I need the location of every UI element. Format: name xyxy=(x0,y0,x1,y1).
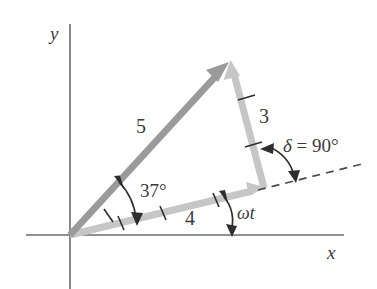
angle-label-omega-t: ωt xyxy=(237,204,255,222)
resultant-vector-5-tick xyxy=(104,209,113,222)
vector-label-3: 3 xyxy=(259,106,269,126)
vector-label-4: 4 xyxy=(185,208,195,228)
angle-delta-value: = 90° xyxy=(292,135,339,156)
resultant-vector-5-group xyxy=(70,62,229,235)
x-axis-label: x xyxy=(327,243,335,262)
angle-delta-symbol: δ xyxy=(283,135,292,156)
angle-label-delta: δ = 90° xyxy=(283,136,339,155)
component-vector-3-group xyxy=(224,60,265,188)
angle-label-37: 37° xyxy=(140,181,167,200)
y-axis-label: y xyxy=(50,24,58,43)
vector-label-5: 5 xyxy=(136,116,146,136)
phase-reference-dashed-line xyxy=(258,164,362,190)
vector-diagram-figure: y x 5 4 3 37° ωt δ = 90° xyxy=(0,0,377,289)
axes-group xyxy=(26,24,344,289)
angle-delta-arrowhead-left xyxy=(260,143,274,154)
angle-delta-arrowhead-lower xyxy=(288,170,300,183)
component-vector-3-shaft xyxy=(234,74,264,188)
